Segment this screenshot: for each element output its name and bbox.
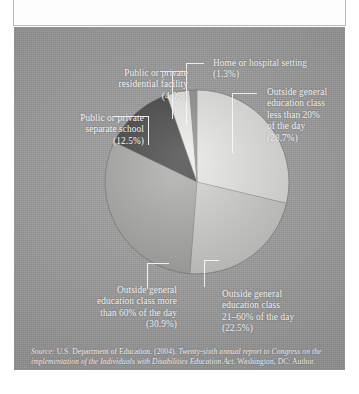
slice-label-line: less than 20% (267, 110, 345, 121)
slice-label-line: education class more (46, 296, 177, 307)
slice-label-line: education class (222, 300, 345, 311)
slice-label-line: Public or private (70, 68, 188, 79)
slice-percent: (30.9%) (46, 319, 177, 330)
slice-label-line: than 60% of the day (46, 308, 177, 319)
slice-label-line: residential facility (70, 79, 188, 90)
slice-label-residential-facility: Public or private residential facility (… (70, 68, 188, 102)
figure-title-strip (13, 0, 346, 26)
slice-label-line: 21–60% of the day (222, 312, 345, 323)
slice-label-line: Home or hospital setting (213, 58, 345, 69)
slice-label-less-than-20: Outside general education class less tha… (267, 87, 345, 144)
slice-percent: (4.0%) (70, 91, 188, 102)
slice-label-more-than-60: Outside general education class more tha… (46, 285, 177, 331)
leader-more60-horizontal (147, 263, 169, 264)
slice-label-line: education class (267, 98, 345, 109)
slice-label-line: separate school (24, 124, 144, 135)
slice-percent: (12.5%) (24, 136, 144, 147)
slice-percent: (1.3%) (213, 69, 345, 80)
leader-21to60-horizontal (204, 260, 219, 261)
leader-separate-vertical (148, 116, 149, 145)
slice-label-separate-school: Public or private separate school (12.5%… (24, 113, 144, 147)
figure-container: Home or hospital setting (1.3%) Outside … (0, 0, 359, 394)
slice-label-line: Outside general (267, 87, 345, 98)
leader-lessthan20-horizontal (232, 93, 257, 94)
slice-percent: (22.5%) (222, 323, 345, 334)
source-note: Source: U.S. Department of Education. (2… (31, 347, 345, 366)
slice-label-line: Outside general (222, 289, 345, 300)
slice-label-line: Outside general (46, 285, 177, 296)
leader-home-horizontal (186, 63, 204, 64)
slice-label-21-to-60: Outside general education class 21–60% o… (222, 289, 345, 335)
slice-percent: (28.7%) (267, 133, 345, 144)
leader-21to60-vertical (204, 260, 205, 287)
leader-lessthan20-vertical (232, 93, 233, 153)
slice-label-line: of the day (267, 121, 345, 132)
source-tail: Washington, DC: Author. (235, 357, 315, 366)
chart-plate: Home or hospital setting (1.3%) Outside … (14, 27, 345, 370)
slice-label-line: Public or private (24, 113, 144, 124)
source-prefix: Source: (31, 347, 55, 356)
source-line1: U.S. Department of Education. (2004). (55, 347, 179, 356)
slice-label-home-or-hospital: Home or hospital setting (1.3%) (213, 58, 345, 81)
